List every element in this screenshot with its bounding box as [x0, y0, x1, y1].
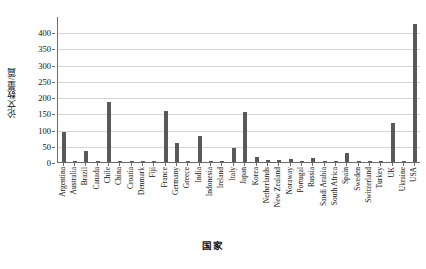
bar [266, 160, 270, 162]
bar [209, 161, 213, 162]
bar [379, 161, 383, 162]
x-tick-mark [278, 163, 279, 166]
x-tick-label: Ireland [217, 167, 225, 188]
x-tick-mark [256, 163, 257, 166]
x-tick-label: South Africa [331, 167, 339, 205]
x-tick-label: Denmark [138, 167, 146, 195]
x-tick-label: Ukraine [399, 167, 407, 191]
x-tick-mark [358, 163, 359, 166]
x-tick-label: USA [410, 167, 418, 182]
bar [311, 158, 315, 162]
bar [220, 161, 224, 162]
x-tick-mark [346, 163, 347, 166]
bar [107, 102, 111, 162]
x-tick-label: Noraway [286, 167, 294, 195]
x-tick-label: China [115, 167, 123, 185]
x-tick-label: Germany [172, 167, 180, 195]
bar [255, 157, 259, 163]
x-tick-mark [108, 163, 109, 166]
y-tick-label: 400 [38, 29, 51, 38]
x-tick-mark [233, 163, 234, 166]
x-tick-mark [380, 163, 381, 166]
bar [164, 111, 168, 162]
x-tick-label: Fiji [149, 167, 157, 177]
x-tick-mark [210, 163, 211, 166]
y-tick-mark [52, 66, 55, 67]
y-tick-label: 300 [38, 61, 51, 70]
x-tick-label: Saudi Arabia [320, 167, 328, 206]
x-tick-mark [414, 163, 415, 166]
bar [402, 161, 406, 162]
bar [334, 161, 338, 162]
bars-layer [58, 17, 420, 162]
x-tick-label: New Zealand [274, 167, 282, 207]
x-tick-mark [119, 163, 120, 166]
bar [118, 161, 122, 162]
y-tick-mark [52, 49, 55, 50]
x-tick-label: Indonesia [206, 167, 214, 196]
x-tick-label: Netherlands [263, 167, 271, 203]
x-tick-label: Switzerland [365, 167, 373, 203]
x-tick-label: Korea [252, 167, 260, 185]
x-tick-label: Brazil [81, 167, 89, 185]
x-tick-mark [301, 163, 302, 166]
x-tick-label: Portugal [297, 167, 305, 192]
x-tick-label: Chile [104, 167, 112, 183]
x-tick-label: Turkey [376, 167, 384, 188]
x-tick-mark [221, 163, 222, 166]
x-tick-mark [335, 163, 336, 166]
x-tick-label: Croatia [127, 167, 135, 189]
y-tick-mark [52, 163, 55, 164]
x-tick-label: Japan [240, 167, 248, 184]
bar [84, 151, 88, 162]
y-tick-label: 100 [38, 126, 51, 135]
bar [73, 161, 77, 162]
y-tick-label: 200 [38, 94, 51, 103]
bar [175, 143, 179, 162]
x-axis-title: 国家 [0, 238, 426, 252]
y-tick-mark [52, 147, 55, 148]
y-tick-mark [52, 33, 55, 34]
y-tick-mark [52, 131, 55, 132]
bar [368, 161, 372, 162]
bar [232, 148, 236, 162]
plot-area [57, 17, 420, 163]
x-tick-mark [403, 163, 404, 166]
bar [243, 112, 247, 162]
bar [277, 160, 281, 162]
x-tick-label: Italy [229, 167, 237, 181]
x-tick-mark [392, 163, 393, 166]
x-axis-tick-labels: ArgentinaAustraliaBrazilCanadaChileChina… [57, 167, 420, 233]
x-tick-mark [369, 163, 370, 166]
bar [345, 153, 349, 162]
x-tick-label: Greece [183, 167, 191, 188]
bar [130, 161, 134, 162]
x-tick-mark [85, 163, 86, 166]
x-tick-mark [165, 163, 166, 166]
x-tick-mark [176, 163, 177, 166]
x-tick-mark [244, 163, 245, 166]
bar [391, 123, 395, 162]
x-tick-label: Spain [342, 167, 350, 184]
bar [413, 24, 417, 162]
bar [62, 132, 66, 162]
bar [141, 161, 145, 162]
y-tick-label: 0 [47, 159, 51, 168]
x-tick-mark [131, 163, 132, 166]
x-tick-mark [63, 163, 64, 166]
x-tick-mark [199, 163, 200, 166]
bar [96, 161, 100, 162]
y-tick-mark [52, 98, 55, 99]
x-tick-label: Russia [308, 167, 316, 187]
x-tick-label: Australia [70, 167, 78, 195]
x-tick-mark [153, 163, 154, 166]
x-tick-label: UK [388, 167, 396, 178]
bar [152, 161, 156, 162]
x-tick-label: Sweden [354, 167, 362, 191]
x-tick-label: Canada [93, 167, 101, 190]
y-tick-label: 250 [38, 78, 51, 87]
bar [323, 161, 327, 162]
y-tick-label: 350 [38, 45, 51, 54]
y-tick-mark [52, 114, 55, 115]
bar [357, 161, 361, 162]
